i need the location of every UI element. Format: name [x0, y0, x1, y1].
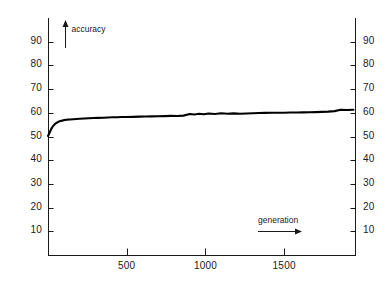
y-axis-tick-label-right: 70 [363, 82, 388, 93]
x-axis-tick-label: 1500 [259, 260, 309, 271]
y-axis-tick-label-left: 20 [4, 201, 42, 212]
chart-canvas [0, 0, 388, 283]
y-axis-tick-label-right: 30 [363, 177, 388, 188]
y-axis-tick-label-right: 50 [363, 130, 388, 141]
y-axis-tick-label-left: 50 [4, 130, 42, 141]
y-axis-tick-label-left: 30 [4, 177, 42, 188]
y-axis-tick-label-left: 60 [4, 106, 42, 117]
data-line-accuracy [48, 110, 353, 136]
y-axis-tick-label-left: 90 [4, 35, 42, 46]
generation-arrow-head [295, 229, 302, 235]
y-axis-tick-label-right: 10 [363, 224, 388, 235]
y-axis-tick-label-right: 40 [363, 153, 388, 164]
accuracy-vs-generation-chart: accuracy generation 10102020303040405050… [0, 0, 388, 283]
y-axis-tick-label-right: 80 [363, 58, 388, 69]
y-axis-tick-label-left: 80 [4, 58, 42, 69]
accuracy-axis-annotation: accuracy [72, 24, 106, 34]
y-axis-tick-label-left: 10 [4, 224, 42, 235]
generation-axis-annotation: generation [258, 215, 298, 225]
y-axis-tick-label-left: 70 [4, 82, 42, 93]
x-axis-tick-label: 500 [102, 260, 152, 271]
y-axis-tick-label-right: 20 [363, 201, 388, 212]
generation-annotation-label: generation [258, 215, 298, 225]
accuracy-arrow-head [63, 20, 69, 27]
y-axis-tick-label-left: 40 [4, 153, 42, 164]
y-axis-tick-label-right: 90 [363, 35, 388, 46]
accuracy-annotation-label: accuracy [72, 24, 106, 34]
y-axis-tick-label-right: 60 [363, 106, 388, 117]
x-axis-tick-label: 1000 [180, 260, 230, 271]
